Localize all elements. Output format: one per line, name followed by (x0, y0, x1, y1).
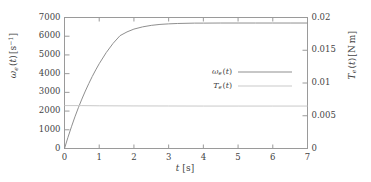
legend-label-omega-e: ωe (t) (192, 67, 232, 76)
y-tick-label-right: 0.015 (312, 44, 346, 54)
y-tick-label-left: 2000 (27, 105, 61, 115)
x-tick-label: 4 (193, 152, 213, 162)
x-tick-label: 7 (298, 152, 318, 162)
y-tick-label-left: 4000 (27, 68, 61, 78)
y-tick-label-right: 0.02 (312, 12, 346, 22)
x-tick-label: 3 (159, 152, 179, 162)
y-tick-label-left: 0 (27, 143, 61, 153)
axis-ticks (65, 18, 308, 149)
y-tick-label-left: 7000 (27, 12, 61, 22)
x-tick-label: 5 (228, 152, 248, 162)
plot-frame (65, 18, 308, 149)
x-tick-label: 0 (55, 152, 75, 162)
y-tick-label-left: 6000 (27, 30, 61, 40)
y-axis-left-label: ωe (t) [s−1] (7, 6, 18, 106)
x-tick-label: 1 (89, 152, 109, 162)
legend-label-t-e: Te (t) (192, 81, 232, 90)
legend-sample-lines (238, 72, 292, 86)
y-tick-label-right: 0 (312, 143, 346, 153)
y-tick-label-right: 0.005 (312, 110, 346, 120)
x-axis-label: t [s] (155, 163, 215, 173)
x-tick-label: 6 (263, 152, 283, 162)
x-tick-label: 2 (124, 152, 144, 162)
y-tick-label-left: 3000 (27, 86, 61, 96)
y-tick-label-left: 1000 (27, 124, 61, 134)
y-tick-label-left: 5000 (27, 49, 61, 59)
y-tick-label-right: 0.01 (312, 77, 346, 87)
chart-figure: ωe (t) [s−1] Te (t) [N m] t [s] 01234567… (0, 0, 371, 182)
y-axis-right-label: Te (t) [N m] (347, 5, 357, 105)
